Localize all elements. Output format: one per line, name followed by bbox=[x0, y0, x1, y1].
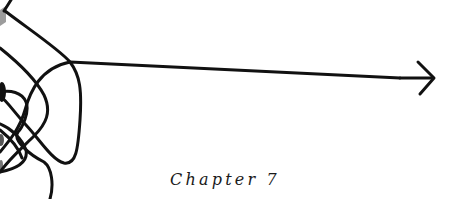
chapter-opener-page: Chapter 7 bbox=[0, 0, 456, 199]
chapter-label: Chapter 7 bbox=[150, 170, 300, 190]
